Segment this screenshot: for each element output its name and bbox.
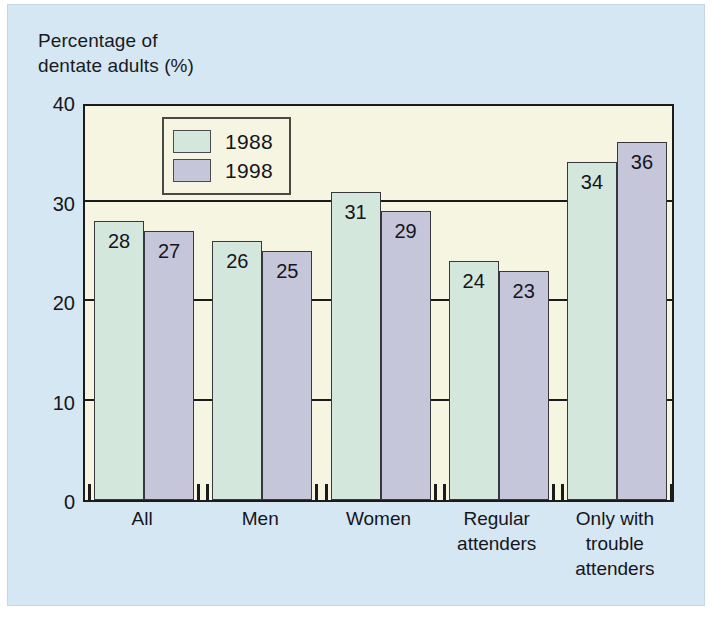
x-axis-tick <box>315 484 318 500</box>
bar-1998-4: 36 <box>617 142 667 500</box>
bar-value-label: 23 <box>500 280 548 303</box>
bar-1988-4: 34 <box>567 162 617 500</box>
legend-label: 1998 <box>225 159 273 183</box>
x-axis-tick <box>325 484 328 500</box>
bar-value-label: 36 <box>618 151 666 174</box>
bar-1998-1: 25 <box>262 251 312 500</box>
x-axis: AllMenWomenRegular attendersOnly with tr… <box>83 506 674 616</box>
legend-swatch-icon <box>173 130 211 153</box>
x-axis-tick <box>552 484 555 500</box>
x-axis-label: Women <box>319 506 437 531</box>
y-tick-label: 40 <box>9 93 75 116</box>
chart-figure: Percentage of dentate adults (%) 0102030… <box>0 0 712 618</box>
x-axis-tick <box>561 484 564 500</box>
chart-legend: 19881998 <box>162 117 291 195</box>
bar-value-label: 29 <box>382 220 430 243</box>
x-axis-tick <box>197 484 200 500</box>
x-axis-tick <box>434 484 437 500</box>
legend-item-1998: 1998 <box>173 156 273 185</box>
plot-area: 28263124342725292336 19881998 <box>83 104 674 502</box>
x-axis-tick <box>443 484 446 500</box>
y-tick-label: 20 <box>9 292 75 315</box>
bar-value-label: 24 <box>450 270 498 293</box>
x-axis-tick <box>206 484 209 500</box>
x-axis-label: Only with trouble attenders <box>556 506 674 581</box>
x-axis-label: All <box>83 506 201 531</box>
x-axis-label: Regular attenders <box>438 506 556 556</box>
bar-value-label: 26 <box>213 250 261 273</box>
x-axis-label: Men <box>201 506 319 531</box>
y-tick-label: 10 <box>9 391 75 414</box>
x-axis-tick <box>670 484 673 500</box>
bar-1998-3: 23 <box>499 271 549 500</box>
legend-item-1988: 1988 <box>173 127 273 156</box>
bar-value-label: 27 <box>145 240 193 263</box>
bar-value-label: 34 <box>568 171 616 194</box>
legend-label: 1988 <box>225 130 273 154</box>
bar-value-label: 28 <box>95 230 143 253</box>
bar-value-label: 31 <box>332 201 380 224</box>
bar-1988-2: 31 <box>331 192 381 500</box>
bar-1988-3: 24 <box>449 261 499 500</box>
bar-1988-1: 26 <box>212 241 262 500</box>
bar-1988-0: 28 <box>94 221 144 500</box>
legend-swatch-icon <box>173 159 211 182</box>
y-axis: 010203040 <box>0 0 75 618</box>
bar-1998-0: 27 <box>144 231 194 500</box>
y-tick-label: 30 <box>9 192 75 215</box>
x-axis-tick <box>88 484 91 500</box>
bar-1998-2: 29 <box>381 211 431 500</box>
bar-value-label: 25 <box>263 260 311 283</box>
y-tick-label: 0 <box>9 491 75 514</box>
